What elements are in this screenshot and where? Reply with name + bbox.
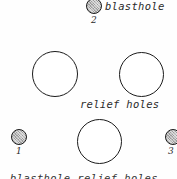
blasthole-2-number: 2 [86,16,102,25]
blasthole-annotation: blasthole [105,1,165,12]
blasthole-3-circle [165,129,177,145]
blasthole-1-circle [11,129,27,145]
blasthole-3-number: 3 [163,147,177,156]
blasthole-1-number: 1 [11,147,27,156]
relief-holes-annotation: relief holes [80,99,159,110]
clipped-bottom-caption: blasthole relief holes [10,173,175,179]
relief-hole-upper-right-circle [119,52,164,97]
relief-hole-upper-left-circle [32,51,78,97]
blasthole-2-circle [86,0,102,14]
relief-hole-lower-center-circle [77,119,122,164]
blasting-pattern-diagram: 2 blasthole relief holes 1 3 blasthole r… [0,0,177,179]
